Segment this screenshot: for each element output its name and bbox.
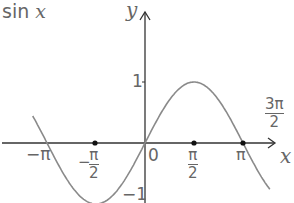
denominator: 2 bbox=[89, 166, 99, 181]
x-axis-label: x bbox=[280, 146, 291, 166]
origin-label: 0 bbox=[148, 147, 159, 164]
x-tick-label-neg-pi: −π bbox=[26, 146, 50, 163]
y-tick-label-1: 1 bbox=[132, 73, 143, 90]
title-var: x bbox=[35, 0, 46, 22]
chart-title: sin x bbox=[2, 2, 46, 21]
denominator: 2 bbox=[188, 166, 198, 181]
plot-area bbox=[0, 0, 294, 203]
numerator: π bbox=[89, 148, 98, 163]
numerator: π bbox=[188, 148, 197, 163]
point-neg-pi-over-2 bbox=[92, 140, 97, 145]
denominator: 2 bbox=[270, 115, 280, 130]
x-tick-label-pi-over-2: π 2 bbox=[188, 148, 198, 181]
title-fn: sin bbox=[2, 0, 29, 22]
x-tick-label-pi: π bbox=[236, 147, 246, 163]
x-tick-label-3pi-over-2: 3π 2 bbox=[265, 97, 284, 130]
point-pi-over-2 bbox=[191, 140, 196, 145]
y-axis-label: y bbox=[126, 0, 137, 20]
y-tick-label-neg1: −1 bbox=[122, 186, 147, 203]
numerator: 3π bbox=[265, 97, 284, 112]
x-tick-label-neg-pi-over-2: π 2 bbox=[89, 148, 99, 181]
